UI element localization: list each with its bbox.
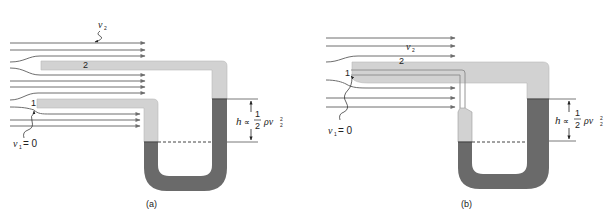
v1-sub-b: 1 — [334, 131, 337, 137]
probe-2-outer-tube-b — [352, 62, 549, 99]
formula-h: h — [555, 114, 561, 126]
formula-den: 2 — [575, 120, 580, 130]
formula-rho-v: ρv — [583, 115, 594, 126]
v1-eq-a: = 0 — [23, 138, 38, 149]
caption-b: (b) — [461, 199, 472, 209]
point-1-label-b: 1 — [345, 68, 350, 78]
formula-b: h ∝ 1 2 ρv 2 2 — [555, 108, 603, 130]
formula-rho-v: ρv — [263, 116, 274, 127]
v2-label-b: v — [406, 41, 411, 52]
formula-num: 1 — [575, 108, 580, 118]
v2-sub-b: 2 — [412, 47, 415, 53]
formula-h: h — [236, 115, 242, 127]
v1-eq-b: = 0 — [338, 125, 353, 136]
v1-label-b: v — [328, 125, 333, 136]
pitot-diagram: h ∝ 1 2 ρv 2 2 2 1 v 2 v 1 = 0 (a) — [0, 0, 612, 216]
point-2-label-a: 2 — [83, 60, 88, 70]
v2-sub-a: 2 — [104, 25, 107, 31]
v1-pointer-a — [24, 111, 35, 138]
panel-b: h ∝ 1 2 ρv 2 2 2 1 v 2 v 1 = 0 (b) — [326, 38, 603, 209]
v2-pointer-a — [95, 31, 102, 42]
caption-a: (a) — [146, 199, 157, 209]
formula-sub: 2 — [600, 121, 603, 127]
v1-label-a: v — [13, 138, 18, 149]
formula-num: 1 — [255, 109, 260, 119]
point-2-label-b: 2 — [399, 56, 404, 66]
v2-label-a: v — [98, 19, 103, 30]
formula-sub: 2 — [280, 122, 283, 128]
formula-prop: ∝ — [244, 118, 250, 127]
probe-1-bulb-b — [458, 108, 472, 142]
streamlines-top-a — [10, 43, 145, 126]
panel-a: h ∝ 1 2 ρv 2 2 2 1 v 2 v 1 = 0 (a) — [10, 19, 283, 209]
formula-a: h ∝ 1 2 ρv 2 2 — [236, 109, 283, 131]
point-1-label-a: 1 — [31, 98, 36, 108]
formula-den: 2 — [255, 121, 260, 131]
v1-sub-a: 1 — [19, 144, 22, 150]
formula-prop: ∝ — [563, 117, 569, 126]
streamline — [326, 56, 455, 62]
